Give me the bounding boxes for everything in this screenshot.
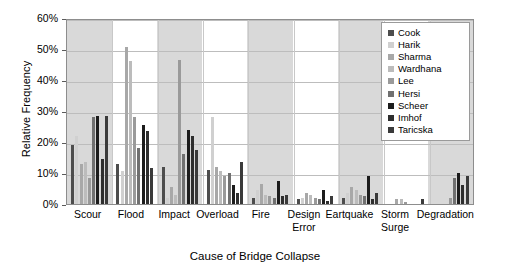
bar bbox=[350, 187, 353, 204]
bar bbox=[174, 195, 177, 204]
bar bbox=[309, 195, 312, 204]
bar bbox=[461, 185, 464, 204]
bar bbox=[453, 178, 456, 204]
bar bbox=[80, 164, 83, 204]
legend-item: Scheer bbox=[388, 100, 465, 112]
bar bbox=[170, 187, 173, 204]
bar bbox=[223, 176, 226, 204]
bar-group bbox=[202, 20, 247, 204]
y-axis-tick-label: 50% bbox=[0, 43, 58, 55]
bar-group bbox=[157, 20, 202, 204]
bar bbox=[166, 198, 169, 204]
bar bbox=[322, 190, 325, 204]
bar bbox=[187, 130, 190, 204]
legend-swatch-icon bbox=[388, 78, 394, 84]
bar bbox=[367, 176, 370, 204]
bar bbox=[404, 202, 407, 204]
bar bbox=[121, 171, 124, 204]
legend-item: Taricska bbox=[388, 124, 465, 136]
x-axis-tick-label: Degradation bbox=[417, 208, 474, 248]
y-axis-tick-labels: 0%10%20%30%40%50%60% bbox=[0, 0, 64, 277]
bar bbox=[195, 150, 198, 204]
bar-group bbox=[112, 20, 157, 204]
bar bbox=[142, 125, 145, 204]
legend-item-label: Sharma bbox=[398, 52, 431, 62]
bar bbox=[421, 199, 424, 204]
bar bbox=[71, 145, 74, 204]
legend-item: Harik bbox=[388, 39, 465, 51]
bar bbox=[191, 136, 194, 204]
bar bbox=[466, 176, 469, 204]
legend-item: Cook bbox=[388, 27, 465, 39]
bar bbox=[105, 116, 108, 204]
bar-group bbox=[67, 20, 112, 204]
legend-item-label: Scheer bbox=[398, 101, 428, 111]
bar bbox=[116, 164, 119, 204]
legend-item-label: Wardhana bbox=[398, 64, 441, 74]
bar bbox=[92, 117, 95, 204]
bar bbox=[256, 190, 259, 204]
bar bbox=[236, 193, 239, 204]
bar bbox=[371, 199, 374, 204]
legend-swatch-icon bbox=[388, 103, 394, 109]
bar bbox=[252, 198, 255, 204]
bar bbox=[359, 195, 362, 204]
y-axis-tick-label: 40% bbox=[0, 74, 58, 86]
bar bbox=[146, 131, 149, 204]
bar bbox=[277, 181, 280, 204]
y-axis-tick-label: 0% bbox=[0, 198, 58, 210]
legend-swatch-icon bbox=[388, 66, 394, 72]
y-axis-tick-label: 60% bbox=[0, 12, 58, 24]
bar bbox=[305, 193, 308, 204]
legend-item-label: Hersi bbox=[398, 89, 420, 99]
bar bbox=[228, 173, 231, 204]
bar bbox=[375, 193, 378, 204]
legend-item: Wardhana bbox=[388, 63, 465, 75]
legend-item: Sharma bbox=[388, 51, 465, 63]
bar bbox=[88, 178, 91, 204]
bar-group bbox=[338, 20, 383, 204]
bar bbox=[240, 162, 243, 204]
bar bbox=[96, 116, 99, 204]
legend: CookHarikSharmaWardhanaLeeHersiScheerImh… bbox=[381, 22, 470, 141]
bar bbox=[137, 148, 140, 204]
bar bbox=[182, 154, 185, 204]
legend-swatch-icon bbox=[388, 91, 394, 97]
bar bbox=[285, 195, 288, 204]
bar bbox=[215, 167, 218, 204]
bar bbox=[342, 198, 345, 204]
x-axis-tick-label: Eartquake bbox=[326, 208, 374, 248]
y-axis-tick-label: 10% bbox=[0, 167, 58, 179]
legend-swatch-icon bbox=[388, 30, 394, 36]
legend-item-label: Harik bbox=[398, 40, 420, 50]
bar bbox=[84, 162, 87, 204]
legend-swatch-icon bbox=[388, 42, 394, 48]
bar bbox=[219, 171, 222, 204]
bar bbox=[355, 190, 358, 204]
y-axis-tick-mark bbox=[62, 205, 66, 206]
legend-swatch-icon bbox=[388, 54, 394, 60]
bar bbox=[162, 167, 165, 204]
bar bbox=[207, 170, 210, 204]
x-axis-tick-label: Scour bbox=[66, 208, 109, 248]
legend-item-label: Lee bbox=[398, 76, 414, 86]
legend-swatch-icon bbox=[388, 127, 394, 133]
bar bbox=[268, 196, 271, 204]
bar bbox=[395, 199, 398, 204]
bar bbox=[326, 201, 329, 204]
x-axis-tick-label: Storm Surge bbox=[373, 208, 416, 248]
bar bbox=[150, 168, 153, 204]
bar bbox=[318, 199, 321, 204]
bar-group bbox=[247, 20, 292, 204]
bar bbox=[346, 193, 349, 204]
bar bbox=[400, 199, 403, 204]
bar bbox=[281, 196, 284, 204]
legend-item-label: Cook bbox=[398, 28, 420, 38]
bar bbox=[260, 184, 263, 204]
bar bbox=[178, 60, 181, 204]
legend-item: Lee bbox=[388, 75, 465, 87]
x-axis-title: Cause of Bridge Collapse bbox=[0, 250, 510, 262]
bar bbox=[264, 195, 267, 204]
y-axis-tick-label: 20% bbox=[0, 136, 58, 148]
bar bbox=[297, 199, 300, 204]
